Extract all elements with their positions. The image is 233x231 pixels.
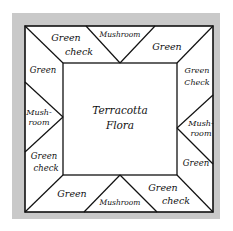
center-label-line2: Flora: [105, 119, 134, 131]
top-middle-patch: Mushroom: [99, 30, 141, 39]
bottom-middle-patch: Mushroom: [99, 198, 141, 207]
patch-label: Green: [57, 188, 87, 199]
patch-label: room: [190, 129, 211, 138]
patch-label: Green: [183, 158, 209, 168]
patch-label: check: [33, 163, 58, 173]
patch-label: Green: [30, 65, 56, 75]
patch-label: check: [162, 195, 190, 206]
center-label-line1: Terracotta: [92, 104, 148, 116]
quilt-border-diagram: Terracotta Flora Green check Mushroom Gr…: [0, 0, 233, 231]
patch-label: check: [65, 46, 93, 57]
top-right-patch: Green: [152, 41, 182, 52]
right-bottom-patch: Green: [183, 158, 209, 168]
patch-label: Green: [148, 182, 178, 193]
patch-label: Mush-: [187, 119, 214, 128]
patch-label: Mushroom: [99, 198, 141, 207]
patch-label: room: [28, 118, 49, 127]
patch-label: Green: [152, 41, 182, 52]
patch-label: Check: [184, 78, 209, 87]
left-top-patch: Green: [30, 65, 56, 75]
patch-label: Green: [31, 151, 57, 161]
left-middle-patch: Mush- room: [25, 108, 52, 127]
right-middle-patch: Mush- room: [187, 119, 214, 138]
patch-label: Mushroom: [99, 30, 141, 39]
patch-label: Green: [51, 32, 81, 43]
patch-label: Green: [185, 66, 210, 75]
bottom-left-patch: Green: [57, 188, 87, 199]
patch-label: Mush-: [25, 108, 52, 117]
